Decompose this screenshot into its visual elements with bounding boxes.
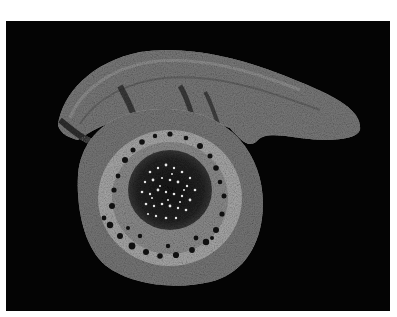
stem-cross-section-image (0, 0, 397, 317)
